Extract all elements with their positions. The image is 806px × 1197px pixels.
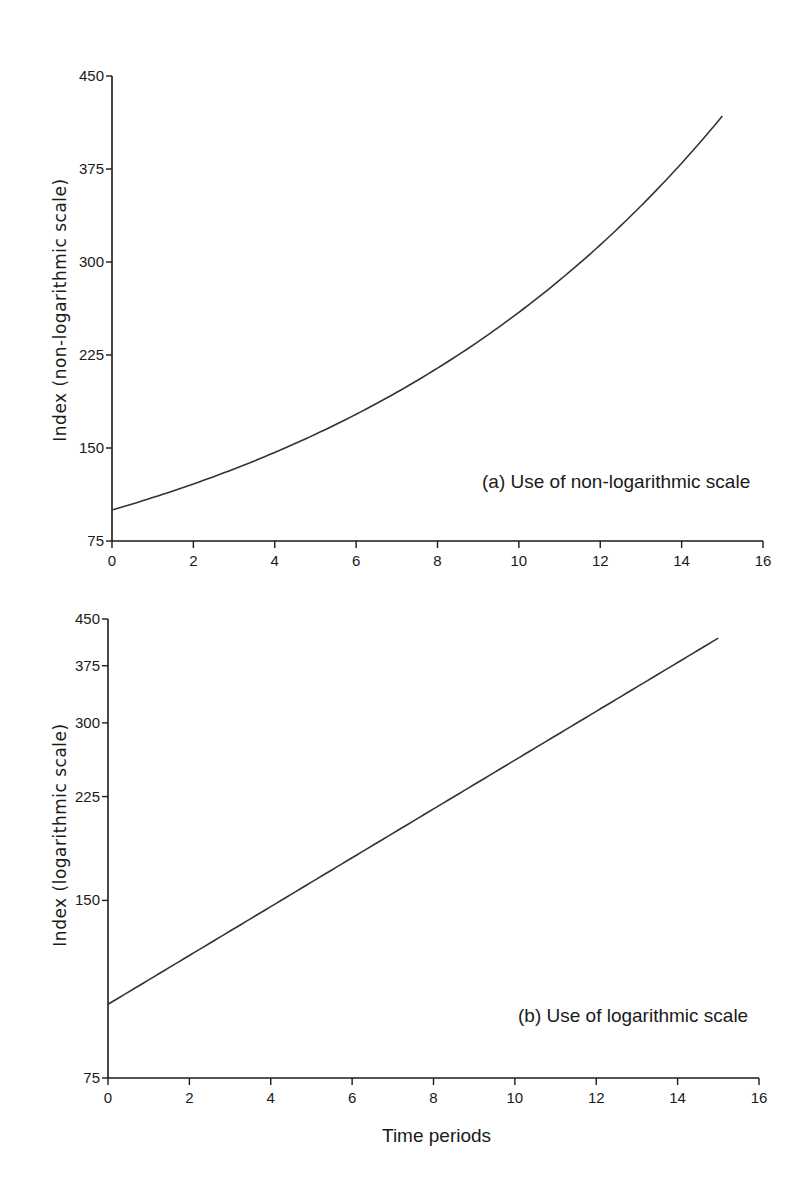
- y-tick-label: 375: [75, 657, 100, 674]
- chart-b-x-ticks: 0246810121416: [104, 1078, 768, 1106]
- chart-b-x-axis-title: Time periods: [382, 1125, 491, 1146]
- y-tick-label: 225: [79, 346, 104, 363]
- x-tick-label: 0: [104, 1089, 112, 1106]
- x-tick-label: 16: [751, 1089, 768, 1106]
- figure: 75150225300375450 0246810121416 Index (n…: [0, 0, 806, 1197]
- y-tick-label: 75: [87, 532, 104, 549]
- x-tick-label: 6: [348, 1089, 356, 1106]
- chart-b-y-ticks: 75150225300375450: [75, 610, 108, 1086]
- chart-a-linear-scale: 75150225300375450 0246810121416 Index (n…: [50, 67, 771, 569]
- x-tick-label: 8: [429, 1089, 437, 1106]
- chart-a-index-line: [112, 116, 722, 510]
- chart-b-annotation: (b) Use of logarithmic scale: [518, 1005, 748, 1026]
- x-tick-label: 4: [271, 552, 279, 569]
- y-tick-label: 450: [79, 67, 104, 84]
- chart-b-log-scale: 75150225300375450 0246810121416 Index (l…: [50, 610, 767, 1146]
- x-tick-label: 14: [673, 552, 690, 569]
- y-tick-label: 300: [75, 714, 100, 731]
- chart-b-y-axis-title: Index (logarithmic scale): [50, 723, 70, 946]
- x-tick-label: 12: [592, 552, 609, 569]
- x-tick-label: 4: [267, 1089, 275, 1106]
- y-tick-label: 225: [75, 788, 100, 805]
- x-tick-label: 16: [755, 552, 772, 569]
- y-tick-label: 75: [83, 1069, 100, 1086]
- chart-b-index-line: [108, 638, 718, 1004]
- x-tick-label: 12: [588, 1089, 605, 1106]
- y-tick-label: 375: [79, 160, 104, 177]
- x-tick-label: 10: [507, 1089, 524, 1106]
- y-tick-label: 300: [79, 253, 104, 270]
- chart-a-annotation: (a) Use of non-logarithmic scale: [482, 471, 750, 492]
- y-tick-label: 150: [79, 439, 104, 456]
- y-tick-label: 150: [75, 891, 100, 908]
- x-tick-label: 2: [185, 1089, 193, 1106]
- x-tick-label: 10: [511, 552, 528, 569]
- x-tick-label: 6: [352, 552, 360, 569]
- chart-a-y-axis-title: Index (non-logarithmic scale): [50, 178, 70, 441]
- y-tick-label: 450: [75, 610, 100, 627]
- x-tick-label: 2: [189, 552, 197, 569]
- x-tick-label: 0: [108, 552, 116, 569]
- x-tick-label: 14: [669, 1089, 686, 1106]
- x-tick-label: 8: [433, 552, 441, 569]
- chart-a-x-ticks: 0246810121416: [108, 541, 772, 569]
- chart-a-y-ticks: 75150225300375450: [79, 67, 112, 549]
